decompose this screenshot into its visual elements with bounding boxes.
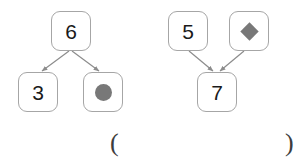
edge-right-top-left-to-bottom: [189, 51, 213, 71]
diagram-canvas: 6 3 5 7 ( ): [0, 0, 300, 164]
node-right-top-left[interactable]: 5: [168, 11, 208, 51]
node-right-top-left-label: 5: [182, 21, 194, 42]
node-left-bottom-left[interactable]: 3: [18, 72, 58, 112]
answer-open-paren: (: [110, 130, 119, 156]
node-right-bottom-label: 7: [211, 82, 223, 103]
node-left-bottom-left-label: 3: [32, 82, 44, 103]
diamond-icon: [240, 22, 258, 40]
edge-left-top-to-bottom-left: [42, 51, 69, 71]
node-left-top[interactable]: 6: [51, 11, 91, 51]
answer-close-paren: ): [285, 130, 294, 156]
node-right-bottom[interactable]: 7: [197, 72, 237, 112]
edge-left-top-to-bottom-right: [72, 51, 99, 71]
node-right-top-right[interactable]: [229, 11, 269, 51]
edge-right-top-right-to-bottom: [220, 51, 244, 71]
node-left-bottom-right[interactable]: [83, 72, 123, 112]
node-left-top-label: 6: [65, 21, 77, 42]
circle-icon: [95, 84, 112, 101]
